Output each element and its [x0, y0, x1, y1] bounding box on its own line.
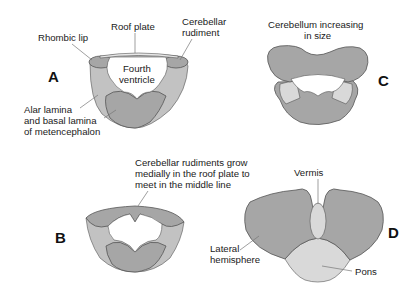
- panel-letter-d: D: [388, 224, 399, 241]
- alar-lamina-label-1: Alar lamina: [24, 104, 73, 115]
- panel-c-caption-1: Cerebellum increasing: [268, 19, 363, 30]
- rhombic-lip-leader: [72, 44, 92, 60]
- cerebellum-development-diagram: A Rhombic lip Roof plate Cerebellar rudi…: [0, 0, 412, 286]
- lateral-hemisphere-label-2: hemisphere: [210, 254, 260, 265]
- lateral-hemisphere-label-1: Lateral: [210, 243, 239, 254]
- fourth-ventricle-label-2: ventricle: [119, 74, 155, 85]
- panel-b-caption-3: meet in the middle line: [135, 179, 231, 190]
- panel-a: A Rhombic lip Roof plate Cerebellar rudi…: [24, 16, 227, 137]
- panel-b-caption-1: Cerebellar rudiments grow: [135, 157, 248, 168]
- cerebellar-rudiment-label-1: Cerebellar: [182, 16, 227, 27]
- panel-b-caption-2: medially in the roof plate to: [135, 168, 250, 179]
- vermis-label: Vermis: [294, 167, 324, 178]
- rhombic-lip-label: Rhombic lip: [38, 32, 88, 43]
- panel-b-leader: [138, 191, 148, 206]
- panel-d: Vermis Lateral hemisphere Pons D: [210, 167, 399, 282]
- pons-label: Pons: [355, 266, 377, 277]
- panel-c: Cerebellum increasing in size C: [268, 19, 390, 125]
- alar-lamina-label-2: and basal lamina: [24, 115, 97, 126]
- alar-lamina-label-3: of metencephalon: [24, 126, 100, 137]
- panel-c-caption-2: in size: [304, 30, 331, 41]
- cerebellar-rudiment-label-2: rudiment: [182, 27, 220, 38]
- panel-letter-c: C: [378, 72, 389, 89]
- fourth-ventricle-label-1: Fourth: [123, 63, 151, 74]
- panel-letter-b: B: [55, 229, 66, 246]
- vermis: [310, 203, 326, 239]
- roof-plate-label: Roof plate: [111, 21, 155, 32]
- panel-letter-a: A: [48, 68, 59, 85]
- cerebellar-rudiment-leader: [180, 39, 192, 60]
